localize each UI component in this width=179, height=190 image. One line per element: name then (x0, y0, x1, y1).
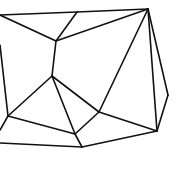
graph-svg (0, 0, 179, 190)
polygon-diagram (0, 0, 179, 190)
edge-F-LB (0, 116, 8, 130)
edge-F-J (8, 116, 75, 134)
edge-J-K (75, 134, 82, 147)
edge-C-G (99, 9, 148, 112)
edge-D-E (52, 41, 56, 76)
edge-TL-B (0, 12, 77, 15)
edge-G-J (75, 112, 99, 134)
edge-B-C (77, 9, 148, 12)
edge-K-H (82, 131, 157, 147)
edge-TL-D (0, 15, 56, 41)
edge-I-H (157, 95, 168, 131)
edge-LE-F (0, 45, 8, 116)
edge-G-H (99, 112, 157, 131)
edge-E-F (8, 76, 52, 116)
edge-BL-K (0, 143, 82, 147)
